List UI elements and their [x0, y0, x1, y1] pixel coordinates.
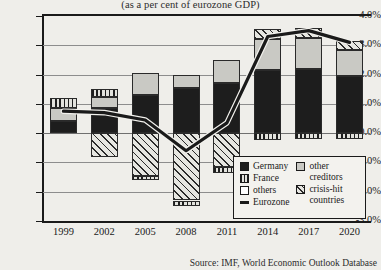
legend-item-crisis: crisis-hit countries [296, 184, 361, 206]
legend-column-left: GermanyFranceothersEurozone [240, 161, 289, 208]
y-axis-tick-mark [36, 162, 43, 163]
y-axis-tick-mark [36, 75, 43, 76]
legend-swatch-france-icon [240, 174, 249, 183]
y-axis-tick-mark [36, 221, 43, 222]
chart-legend: GermanyFranceothersEurozone other credit… [233, 156, 366, 219]
legend-swatch-creditors-icon [296, 162, 305, 171]
legend-swatch-germany-icon [240, 162, 249, 171]
chart-subtitle: (as a per cent of eurozone GDP) [0, 0, 381, 10]
legend-swatch-line-icon [240, 201, 249, 204]
chart-container: (as a per cent of eurozone GDP) 4.0%3.0%… [0, 0, 381, 270]
y-axis-tick-mark [36, 133, 43, 134]
legend-label: crisis-hit countries [309, 184, 361, 206]
y-axis-tick-mark [36, 104, 43, 105]
eurozone-line-path [63, 31, 349, 151]
y-axis-tick-mark [36, 45, 43, 46]
legend-label: France [253, 173, 279, 184]
legend-label: others [253, 185, 276, 196]
legend-swatch-crisis-icon [296, 185, 305, 194]
eurozone-line-halo [63, 31, 349, 151]
x-axis-tick-label: 2020 [323, 226, 377, 237]
legend-label: Germany [253, 161, 288, 172]
source-note: Source: IMF, World Economic Outlook Data… [190, 258, 377, 268]
y-axis-tick-mark [36, 16, 43, 17]
legend-item-france: France [240, 173, 289, 184]
legend-label: other creditors [309, 161, 361, 183]
legend-item-creditors: other creditors [296, 161, 361, 183]
x-axis-line [42, 221, 371, 223]
legend-item-germany: Germany [240, 161, 289, 172]
legend-item-others: others [240, 185, 289, 196]
legend-column-right: other creditorscrisis-hit countries [296, 161, 361, 208]
legend-label: Eurozone [253, 197, 289, 208]
legend-swatch-others-icon [240, 186, 249, 195]
legend-item-line: Eurozone [240, 197, 289, 208]
y-axis-tick-mark [36, 192, 43, 193]
